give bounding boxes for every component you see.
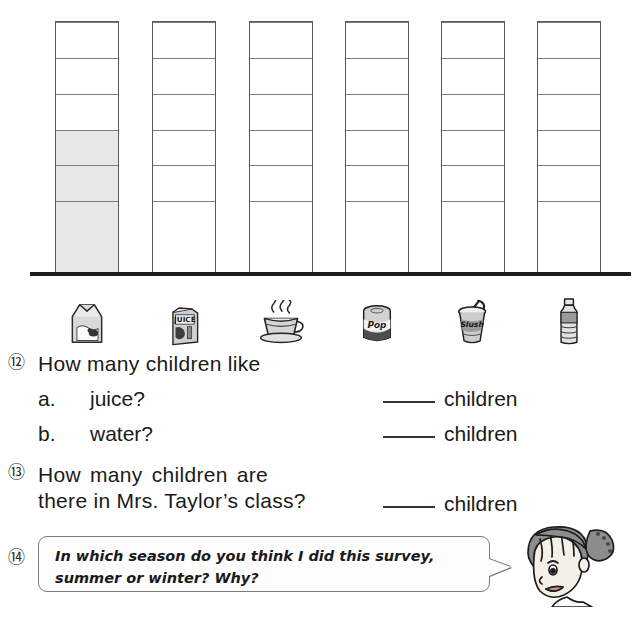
bar-cell[interactable] <box>250 201 312 237</box>
bar-column-tea <box>249 21 313 273</box>
bar-column-juice <box>152 21 216 273</box>
bar-cell[interactable] <box>250 130 312 166</box>
bar-cell[interactable] <box>56 22 118 58</box>
category-icon-row: JUICE Pop <box>0 286 637 348</box>
question-13-line-2: there in Mrs. Taylor’s class? <box>38 488 368 514</box>
answer-unit-12b: children <box>444 422 518 446</box>
bar-cell[interactable] <box>442 58 504 94</box>
bar-cell[interactable] <box>442 94 504 130</box>
juice-box-icon: JUICE <box>152 290 216 348</box>
milk-carton-icon <box>55 290 119 348</box>
bar-cell[interactable] <box>250 94 312 130</box>
question-12b-row: b. water? children <box>38 422 637 446</box>
question-12b-answer[interactable]: children <box>383 422 518 446</box>
question-13-text: How many children are there in Mrs. Tayl… <box>38 462 368 515</box>
bar-cell[interactable] <box>442 165 504 201</box>
water-bottle-icon <box>537 290 601 348</box>
bar-cell[interactable] <box>56 165 118 201</box>
bar-cell[interactable] <box>538 237 600 272</box>
bar-cell[interactable] <box>56 237 118 272</box>
svg-text:Pop: Pop <box>368 320 387 330</box>
bar-cell[interactable] <box>346 165 408 201</box>
question-13-line-1: How many children are <box>38 462 368 488</box>
answer-unit-13: children <box>444 492 518 516</box>
bar-cell[interactable] <box>538 130 600 166</box>
question-12: ⑫ How many children like a. juice? child… <box>0 352 637 446</box>
questions-section: ⑫ How many children like a. juice? child… <box>0 352 637 605</box>
question-12a-row: a. juice? children <box>38 387 637 411</box>
question-12a-label: a. <box>38 387 90 411</box>
answer-blank-12b[interactable] <box>383 436 435 438</box>
bar-column-milk <box>55 21 119 273</box>
pop-can-icon: Pop <box>345 290 409 348</box>
question-12-number: ⑫ <box>8 354 25 371</box>
svg-text:Slush: Slush <box>460 320 483 329</box>
bar-cell[interactable] <box>442 22 504 58</box>
answer-blank-12a[interactable] <box>383 401 435 403</box>
bar-cell[interactable] <box>538 58 600 94</box>
bar-cell[interactable] <box>442 201 504 237</box>
bar-column-slush <box>441 21 505 273</box>
bar-cell[interactable] <box>153 22 215 58</box>
bar-cell[interactable] <box>250 22 312 58</box>
bar-cell[interactable] <box>56 94 118 130</box>
bar-cell[interactable] <box>538 165 600 201</box>
bar-cell[interactable] <box>56 130 118 166</box>
answer-blank-13[interactable] <box>383 506 435 508</box>
bar-cell[interactable] <box>538 22 600 58</box>
teacher-character-illustration <box>512 525 634 607</box>
bar-cell[interactable] <box>538 94 600 130</box>
bar-cell[interactable] <box>250 237 312 272</box>
bar-cell[interactable] <box>153 130 215 166</box>
question-12b-text: water? <box>90 422 153 446</box>
slush-cup-icon: Slush <box>441 290 505 348</box>
bar-cell[interactable] <box>538 201 600 237</box>
bar-cell[interactable] <box>346 201 408 237</box>
bar-cell[interactable] <box>346 237 408 272</box>
answer-unit-12a: children <box>444 387 518 411</box>
bar-cell[interactable] <box>56 58 118 94</box>
question-14-number: ⑭ <box>8 549 25 566</box>
svg-text:JUICE: JUICE <box>173 315 196 324</box>
bar-cell[interactable] <box>153 201 215 237</box>
bar-cell[interactable] <box>153 58 215 94</box>
bar-cell[interactable] <box>346 94 408 130</box>
question-12a-answer[interactable]: children <box>383 387 518 411</box>
question-13: ⑬ How many children are there in Mrs. Ta… <box>0 462 637 515</box>
question-12b-label: b. <box>38 422 90 446</box>
bar-column-water <box>537 21 601 273</box>
question-13-number: ⑬ <box>8 464 25 481</box>
bar-column-pop <box>345 21 409 273</box>
bar-cell[interactable] <box>250 165 312 201</box>
bar-chart <box>0 0 637 285</box>
question-14: ⑭ In which season do you think I did thi… <box>0 533 637 603</box>
bar-cell[interactable] <box>153 165 215 201</box>
bar-cell[interactable] <box>442 130 504 166</box>
bar-cell[interactable] <box>442 237 504 272</box>
speech-bubble-tail <box>489 559 511 576</box>
question-12-prompt: How many children like <box>38 352 637 376</box>
bar-cell[interactable] <box>153 94 215 130</box>
question-13-answer[interactable]: children <box>383 492 518 516</box>
bar-cell[interactable] <box>346 130 408 166</box>
bar-cell[interactable] <box>346 58 408 94</box>
speech-bubble: In which season do you think I did this … <box>38 536 490 592</box>
bar-cell[interactable] <box>153 237 215 272</box>
chart-baseline <box>30 272 631 276</box>
speech-bubble-text: In which season do you think I did this … <box>55 546 473 590</box>
bar-cell[interactable] <box>250 58 312 94</box>
bar-cell[interactable] <box>346 22 408 58</box>
question-12a-text: juice? <box>90 387 145 411</box>
bar-cell[interactable] <box>56 201 118 237</box>
teacup-icon <box>249 290 313 348</box>
